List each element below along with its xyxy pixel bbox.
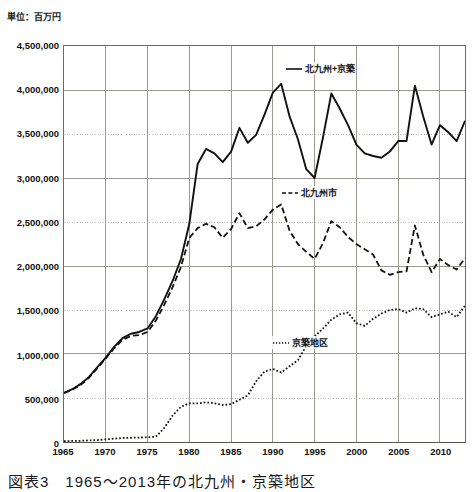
- x-axis-tick: 1980: [178, 446, 199, 457]
- y-axis-tick: 500,000: [1, 393, 59, 404]
- x-axis-tick: 2010: [430, 446, 451, 457]
- legend-item-total: 北九州+京築: [285, 62, 356, 75]
- legend-label-keichiku: 京築地区: [292, 336, 328, 349]
- y-axis-tick: 4,500,000: [1, 40, 59, 51]
- x-axis-tick: 1990: [262, 446, 283, 457]
- x-axis-labels: 1965197019751980198519901995200020052010: [63, 446, 466, 462]
- legend-item-keichiku: 京築地区: [272, 336, 329, 349]
- chart-svg: [64, 46, 465, 442]
- legend-swatch-dashed-icon: [282, 189, 298, 197]
- x-axis-tick: 1975: [136, 446, 157, 457]
- x-axis-tick: 1995: [304, 446, 325, 457]
- y-axis-tick: 3,000,000: [1, 172, 59, 183]
- legend-swatch-dotted-icon: [273, 339, 289, 347]
- x-axis-tick: 1985: [220, 446, 241, 457]
- y-axis-tick: 1,500,000: [1, 305, 59, 316]
- figure-caption: 図表3 1965〜2013年の北九州・京築地区: [8, 470, 476, 491]
- y-axis-tick: 3,500,000: [1, 128, 59, 139]
- plot-area: [63, 45, 466, 443]
- figure-container: 単位：百万円 4,500,0004,000,0003,500,0003,000,…: [0, 0, 476, 492]
- x-axis-tick: 2000: [346, 446, 367, 457]
- y-axis-tick: 2,500,000: [1, 216, 59, 227]
- y-axis-tick: 1,000,000: [1, 349, 59, 360]
- x-axis-tick: 1965: [52, 446, 73, 457]
- legend-label-total: 北九州+京築: [305, 62, 355, 75]
- legend-label-city: 北九州市: [301, 186, 337, 199]
- y-axis-tick: 4,000,000: [1, 84, 59, 95]
- y-axis-tick: 0: [1, 438, 59, 449]
- legend-item-city: 北九州市: [281, 186, 338, 199]
- legend-swatch-solid-icon: [286, 65, 302, 73]
- y-axis-labels: 4,500,0004,000,0003,500,0003,000,0002,50…: [0, 0, 59, 492]
- x-axis-tick: 1970: [94, 446, 115, 457]
- y-axis-tick: 2,000,000: [1, 261, 59, 272]
- x-axis-tick: 2005: [388, 446, 409, 457]
